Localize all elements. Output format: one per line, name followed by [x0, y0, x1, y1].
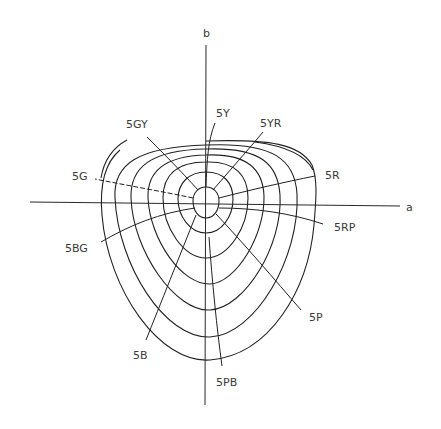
contour-7: [101, 141, 316, 361]
label-5P: 5P: [309, 311, 323, 324]
chroma-contours: [101, 140, 316, 360]
ray-5R: [219, 176, 315, 198]
ray-5RP: [219, 208, 323, 224]
label-5GY: 5GY: [126, 118, 148, 131]
ray-5G: [95, 179, 193, 198]
b-axis: [205, 45, 206, 405]
a-axis-label: a: [406, 201, 413, 214]
axes: b a: [30, 27, 413, 405]
label-5Y: 5Y: [216, 107, 230, 120]
label-5BG: 5BG: [65, 242, 88, 255]
munsell-ab-diagram: b a 5Y 5YR 5GY 5R 5G 5RP 5BG 5P 5B: [0, 0, 441, 429]
label-5B: 5B: [133, 349, 148, 362]
label-5PB: 5PB: [216, 376, 237, 389]
hue-rays: [95, 123, 323, 366]
b-axis-label: b: [203, 27, 210, 40]
label-5RP: 5RP: [334, 221, 356, 234]
label-5G: 5G: [72, 170, 88, 183]
label-5R: 5R: [325, 169, 340, 182]
label-5YR: 5YR: [260, 117, 282, 130]
a-axis: [30, 202, 400, 206]
